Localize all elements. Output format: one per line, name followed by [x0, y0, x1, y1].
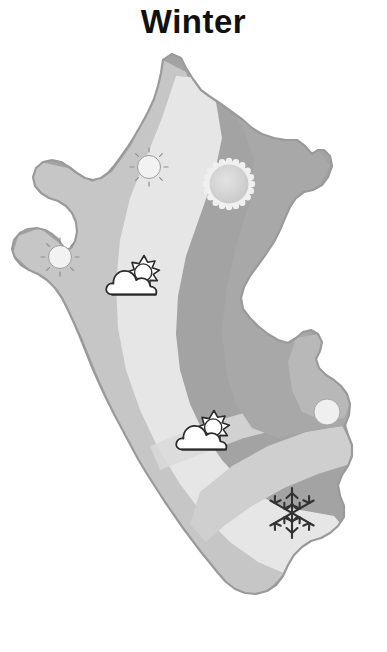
partly-cloudy-icon[interactable]: [104, 250, 166, 302]
partly-cloudy-icon[interactable]: [174, 405, 236, 457]
sun-icon[interactable]: [129, 147, 169, 187]
map-zones: [0, 46, 387, 652]
sun-disc: [49, 246, 72, 269]
sun-icon[interactable]: [310, 395, 344, 429]
sun-disc: [138, 156, 161, 179]
page-title: Winter: [0, 2, 387, 42]
sun-disc: [210, 165, 249, 204]
snowflake-icon[interactable]: [263, 484, 321, 542]
map-container: [0, 46, 387, 652]
peru-climate-map: [0, 46, 387, 652]
sun-disc: [314, 399, 340, 425]
sun-icon[interactable]: [40, 237, 80, 277]
snowflake-arms: [270, 488, 313, 538]
weather-map-page: Winter: [0, 0, 387, 652]
bright-sun-icon[interactable]: [203, 158, 255, 210]
